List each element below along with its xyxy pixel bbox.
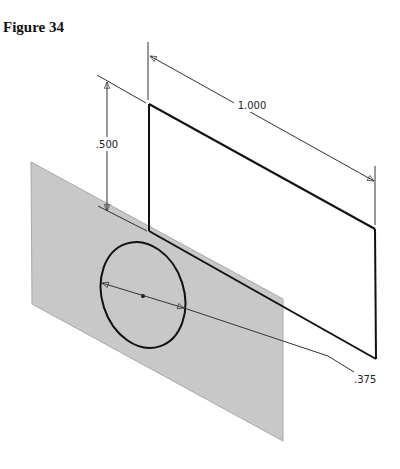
dimension-diameter-label: .375: [354, 374, 376, 385]
width-extension-lines: [148, 42, 375, 225]
work-plane: [31, 162, 283, 441]
dimension-width-label: 1.000: [238, 100, 267, 111]
dimension-width-line: [150, 56, 374, 181]
isometric-diagram: 1.000 .500 .375: [0, 0, 400, 469]
dimension-height-label: .500: [96, 139, 118, 150]
